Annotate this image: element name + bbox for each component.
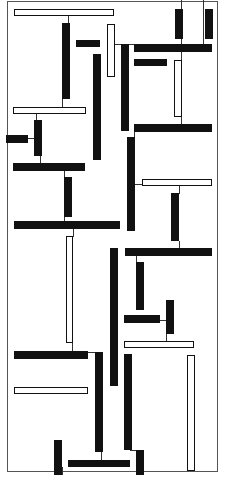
white-bar: [13, 107, 86, 114]
black-bar: [14, 221, 120, 229]
black-bar: [6, 135, 28, 143]
white-bar: [142, 179, 212, 186]
black-bar: [125, 248, 212, 256]
black-bar: [171, 193, 179, 241]
black-bar: [127, 137, 135, 231]
black-bar: [136, 262, 144, 310]
black-bar: [14, 351, 88, 359]
black-bar: [175, 9, 183, 39]
black-bar: [64, 177, 72, 217]
black-bar: [136, 450, 144, 475]
white-bar: [124, 341, 194, 348]
connector-line: [62, 467, 63, 475]
connector-line: [73, 229, 74, 237]
black-bar: [205, 9, 213, 39]
black-bar: [95, 352, 103, 452]
connector-line: [179, 186, 180, 194]
white-bar: [107, 24, 115, 77]
connector-line: [203, 0, 204, 44]
black-bar: [134, 124, 212, 132]
black-bar: [34, 120, 42, 156]
white-bar: [174, 60, 182, 117]
white-bar: [187, 355, 195, 471]
black-bar: [54, 440, 62, 475]
black-bar: [121, 44, 129, 131]
white-bar: [14, 9, 114, 16]
black-bar: [124, 354, 132, 450]
black-bar: [110, 248, 118, 386]
white-bar: [66, 236, 73, 343]
artwork-canvas: [0, 0, 228, 488]
black-bar: [76, 40, 100, 47]
black-bar: [166, 300, 174, 334]
black-bar: [134, 59, 167, 66]
black-bar: [13, 163, 85, 171]
black-bar: [68, 460, 130, 467]
white-bar: [14, 387, 88, 394]
black-bar: [62, 23, 70, 99]
black-bar: [134, 44, 212, 52]
black-bar: [93, 54, 101, 160]
black-bar: [124, 315, 160, 323]
